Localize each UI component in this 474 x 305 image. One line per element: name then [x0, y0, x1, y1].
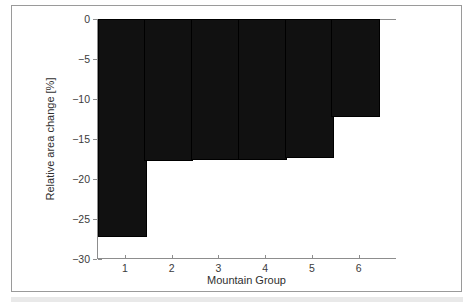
x-tick-label: 2 [169, 263, 175, 274]
y-tick-label: −10 [72, 94, 90, 105]
x-axis-title: Mountain Group [97, 275, 396, 286]
x-tick-mark [265, 255, 266, 259]
y-tick-label: −5 [78, 54, 90, 65]
bar [98, 19, 147, 237]
y-tick-mark [93, 139, 97, 140]
x-tick-label: 6 [356, 263, 362, 274]
bar [144, 19, 193, 161]
x-tick-mark [312, 255, 313, 259]
bar [238, 19, 287, 160]
y-axis-title: Relative area change [%] [45, 78, 56, 201]
x-tick-mark [172, 255, 173, 259]
x-tick-label: 5 [309, 263, 315, 274]
y-tick-mark [93, 179, 97, 180]
y-tick-label: 0 [84, 14, 90, 25]
x-tick-label: 3 [216, 263, 222, 274]
bar [285, 19, 334, 158]
plot-area: 0−5−10−15−20−25−30 123456 Relative area … [97, 19, 396, 259]
y-tick-label: −20 [72, 174, 90, 185]
y-tick-label: −25 [72, 214, 90, 225]
y-tick-mark-inner [98, 259, 102, 260]
x-tick-mark [218, 255, 219, 259]
y-tick-mark [93, 99, 97, 100]
y-tick-mark [93, 259, 97, 260]
x-axis-spine [97, 258, 396, 259]
y-tick-mark [93, 59, 97, 60]
y-tick-label: −30 [72, 254, 90, 265]
bar [331, 19, 380, 117]
y-tick-mark [93, 19, 97, 20]
bar [191, 19, 240, 160]
x-tick-mark [125, 255, 126, 259]
y-tick-label: −15 [72, 134, 90, 145]
footer-separator [11, 297, 463, 302]
chart-figure: 0−5−10−15−20−25−30 123456 Relative area … [0, 0, 474, 305]
x-tick-label: 1 [122, 263, 128, 274]
x-tick-label: 4 [262, 263, 268, 274]
x-tick-mark [359, 255, 360, 259]
y-tick-mark [93, 219, 97, 220]
